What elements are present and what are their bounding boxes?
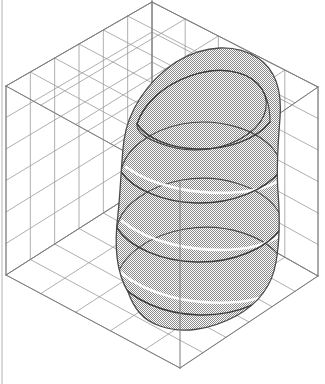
surface-plot-figure: 3D Surface Plot (0, 0, 325, 384)
plot-canvas[interactable] (0, 0, 325, 384)
